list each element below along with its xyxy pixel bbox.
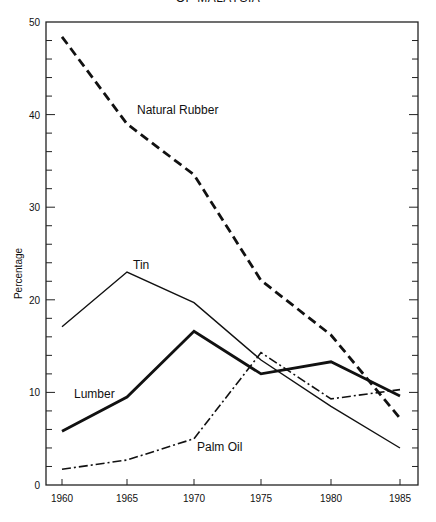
y-tick-label: 10 [29,387,41,398]
line-chart: 01020304050196019651970197519801985Perce… [0,0,436,522]
x-tick-label: 1960 [51,493,74,504]
x-tick-label: 1985 [389,493,412,504]
series-label-palm-oil: Palm Oil [197,440,242,454]
series-line-natural-rubber [62,37,400,419]
series-label-natural-rubber: Natural Rubber [137,103,218,117]
series-label-lumber: Lumber [74,387,115,401]
y-axis-label: Percentage [13,247,24,299]
x-tick-label: 1965 [116,493,139,504]
y-tick-label: 30 [29,202,41,213]
x-tick-label: 1970 [183,493,206,504]
series-label-tin: Tin [133,258,149,272]
x-tick-label: 1980 [320,493,343,504]
x-tick-label: 1975 [250,493,273,504]
series-line-tin [62,272,400,448]
y-tick-label: 50 [29,17,41,28]
series-line-lumber [62,331,400,431]
plot-frame [46,22,418,485]
y-tick-label: 20 [29,295,41,306]
y-tick-label: 0 [34,480,40,491]
y-tick-label: 40 [29,110,41,121]
